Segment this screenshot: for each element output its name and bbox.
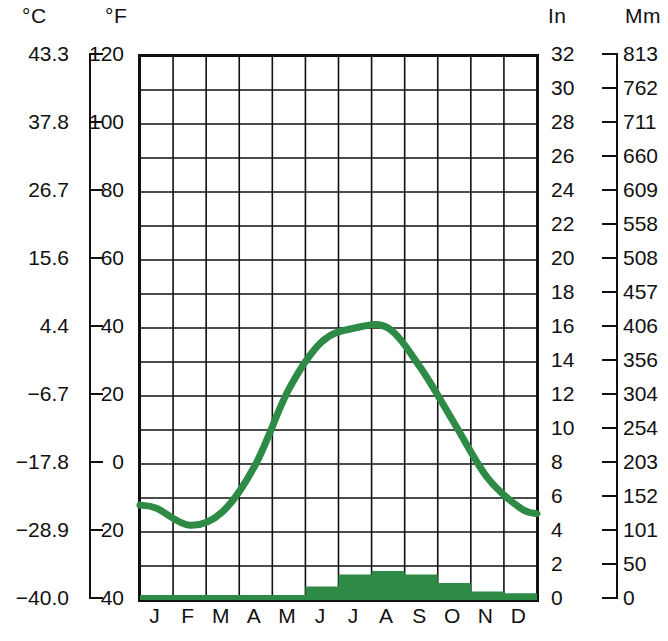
month-label-june: J: [303, 604, 337, 628]
mm-tick-mark-7: [602, 291, 618, 293]
inches-tick-8: 16: [551, 315, 574, 336]
inches-tick-7: 18: [551, 281, 574, 302]
inches-tick-2: 28: [551, 111, 574, 132]
celsius-axis-title: °C: [22, 4, 47, 28]
month-label-february: F: [171, 604, 205, 628]
celsius-tick-mark-3: [89, 257, 103, 259]
mm-tick-mark-2: [602, 121, 618, 123]
celsius-tick-1: 37.8: [28, 111, 69, 132]
mm-tick-2: 711: [623, 111, 656, 132]
month-label-july: J: [336, 604, 370, 628]
climograph-chart: °C °F In Mm 43.337.826.715.64.4−6.7−17.8…: [0, 0, 668, 641]
fahrenheit-tick-3: 60: [101, 247, 124, 268]
celsius-tick-8: −40.0: [16, 587, 69, 608]
mm-tick-0: 813: [623, 43, 658, 64]
month-label-december: D: [501, 604, 535, 628]
inches-tick-11: 10: [551, 417, 574, 438]
celsius-tick-0: 43.3: [28, 43, 69, 64]
mm-tick-mark-1: [602, 87, 618, 89]
mm-tick-6: 508: [623, 247, 658, 268]
month-label-april: A: [237, 604, 271, 628]
inches-tick-1: 30: [551, 77, 574, 98]
mm-tick-mark-15: [602, 563, 618, 565]
mm-tick-mark-16: [602, 597, 618, 599]
celsius-tick-mark-2: [89, 189, 103, 191]
mm-tick-16: 0: [623, 587, 635, 608]
mm-tick-mark-6: [602, 257, 618, 259]
inches-tick-15: 2: [551, 553, 563, 574]
inches-tick-13: 6: [551, 485, 563, 506]
mm-tick-10: 304: [623, 383, 658, 404]
mm-tick-5: 558: [623, 213, 658, 234]
inches-tick-14: 4: [551, 519, 563, 540]
mm-tick-mark-8: [602, 325, 618, 327]
mm-tick-mark-4: [602, 189, 618, 191]
celsius-tick-4: 4.4: [40, 315, 69, 336]
plot-area: [138, 54, 539, 602]
mm-tick-7: 457: [623, 281, 658, 302]
mm-tick-1: 762: [623, 77, 658, 98]
mm-tick-15: 50: [623, 553, 646, 574]
mm-tick-8: 406: [623, 315, 658, 336]
inches-tick-9: 14: [551, 349, 574, 370]
mm-tick-14: 101: [623, 519, 658, 540]
inches-tick-5: 22: [551, 213, 574, 234]
month-label-october: O: [435, 604, 469, 628]
mm-tick-mark-13: [602, 495, 618, 497]
inches-tick-3: 26: [551, 145, 574, 166]
month-label-january: J: [138, 604, 172, 628]
inches-tick-0: 32: [551, 43, 574, 64]
fahrenheit-tick-4: 40: [101, 315, 124, 336]
fahrenheit-tick-2: 80: [101, 179, 124, 200]
celsius-tick-5: −6.7: [28, 383, 69, 404]
mm-tick-4: 609: [623, 179, 658, 200]
inches-axis-title: In: [548, 4, 567, 28]
precipitation-band: [140, 571, 537, 600]
mm-tick-mark-14: [602, 529, 618, 531]
celsius-tick-7: −28.9: [16, 519, 69, 540]
celsius-tick-mark-6: [89, 461, 103, 463]
inches-tick-6: 20: [551, 247, 574, 268]
celsius-tick-mark-7: [89, 529, 103, 531]
month-label-august: A: [369, 604, 403, 628]
mm-tick-mark-0: [602, 53, 618, 55]
inches-tick-4: 24: [551, 179, 574, 200]
mm-tick-mark-5: [602, 223, 618, 225]
celsius-tick-3: 15.6: [28, 247, 69, 268]
mm-tick-mark-11: [602, 427, 618, 429]
celsius-tick-mark-5: [89, 393, 103, 395]
mm-tick-mark-10: [602, 393, 618, 395]
fahrenheit-tick-5: 20: [101, 383, 124, 404]
mm-tick-13: 152: [623, 485, 658, 506]
month-label-may: M: [270, 604, 304, 628]
celsius-tick-mark-0: [89, 53, 103, 55]
celsius-tick-mark-8: [89, 597, 103, 599]
month-label-march: M: [204, 604, 238, 628]
mm-axis-title: Mm: [625, 4, 661, 28]
celsius-tick-2: 26.7: [28, 179, 69, 200]
month-label-november: N: [468, 604, 502, 628]
celsius-tick-mark-1: [89, 121, 103, 123]
celsius-tick-6: −17.8: [16, 451, 69, 472]
celsius-tick-mark-4: [89, 325, 103, 327]
mm-tick-mark-9: [602, 359, 618, 361]
temperature-curve: [140, 324, 537, 525]
month-label-september: S: [402, 604, 436, 628]
data-series-layer: [140, 56, 537, 600]
fahrenheit-axis-title: °F: [105, 4, 127, 28]
fahrenheit-tick-6: 0: [112, 451, 124, 472]
mm-tick-mark-3: [602, 155, 618, 157]
inches-tick-10: 12: [551, 383, 574, 404]
mm-tick-11: 254: [623, 417, 658, 438]
mm-tick-12: 203: [623, 451, 658, 472]
mm-tick-3: 660: [623, 145, 658, 166]
inches-tick-12: 8: [551, 451, 563, 472]
mm-tick-9: 356: [623, 349, 658, 370]
inches-tick-16: 0: [551, 587, 563, 608]
mm-tick-mark-12: [602, 461, 618, 463]
